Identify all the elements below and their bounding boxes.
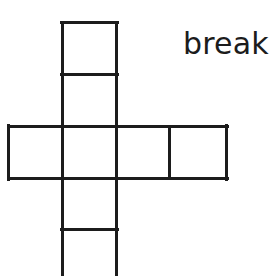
break-label: break [183,28,269,60]
drawing-canvas: break [0,0,270,276]
